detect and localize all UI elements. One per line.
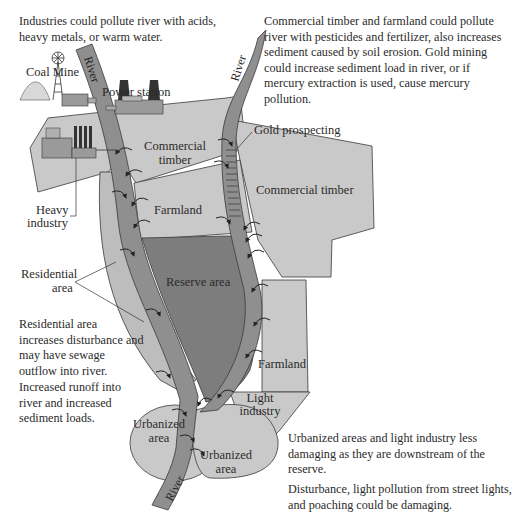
coal-pile-icon bbox=[20, 82, 50, 100]
reserve-area-label: Reserve area bbox=[166, 275, 231, 289]
farmland-right-parcel bbox=[262, 280, 308, 392]
urbanized-left-label-2: area bbox=[149, 431, 170, 445]
commercial-timber-left-label-1: Commercial bbox=[144, 139, 206, 153]
heavy-industry-label-1: Heavy bbox=[36, 203, 69, 217]
note-urbanized: Urbanized areas and light industry less … bbox=[288, 431, 488, 478]
mine-building-icon bbox=[62, 94, 88, 106]
residential-label-1: Residential bbox=[21, 267, 78, 281]
note-timber-farmland: Commercial timber and farmland could pol… bbox=[264, 14, 504, 108]
power-station-label: Power station bbox=[102, 85, 171, 99]
note-runoff: Increased runoff into river and increase… bbox=[19, 380, 144, 427]
heavy-industry-label-2: industry bbox=[27, 216, 69, 230]
light-industry-label-2: industry bbox=[240, 404, 282, 418]
note-industries: Industries could pollute river with acid… bbox=[19, 14, 239, 45]
urbanized-right-label-2: area bbox=[216, 462, 237, 476]
commercial-timber-left-label-2: timber bbox=[159, 153, 192, 167]
farmland-left-label: Farmland bbox=[154, 203, 203, 217]
residential-label-2: area bbox=[52, 281, 73, 295]
light-industry-label-1: Light bbox=[246, 391, 274, 405]
farmland-right-label: Farmland bbox=[258, 357, 307, 371]
note-disturbance: Disturbance, light pollution from street… bbox=[288, 482, 513, 513]
coal-mine-label: Coal Mine bbox=[26, 65, 80, 79]
commercial-timber-right-parcel bbox=[232, 120, 374, 277]
gold-prospecting-label: Gold prospecting bbox=[254, 123, 341, 137]
urbanized-right-label-1: Urbanized bbox=[200, 448, 253, 462]
note-residential: Residential area increases disturbance a… bbox=[19, 317, 144, 379]
commercial-timber-right-label: Commercial timber bbox=[256, 183, 354, 197]
